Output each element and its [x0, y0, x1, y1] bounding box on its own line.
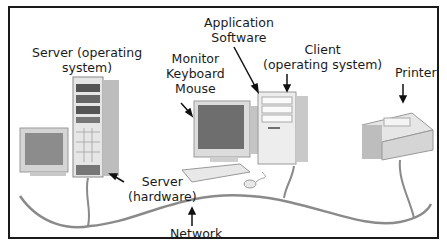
label-printer: Printer	[395, 65, 437, 80]
client-mouse-icon	[244, 180, 256, 188]
label-network: Network	[170, 226, 222, 241]
label-line: (operating system)	[263, 57, 382, 72]
label-line: Monitor	[166, 51, 225, 66]
label-server-hardware: Server (hardware)	[128, 174, 197, 204]
client-monitor-icon	[194, 101, 260, 162]
label-line: (hardware)	[128, 189, 197, 204]
label-line: Server	[128, 174, 197, 189]
label-peripherals: Monitor Keyboard Mouse	[166, 51, 225, 96]
label-client-os: Client (operating system)	[263, 42, 382, 72]
server-tower-icon	[73, 77, 119, 177]
label-line: Application	[204, 15, 274, 30]
label-line: system)	[32, 60, 142, 75]
label-application-software: Application Software	[204, 15, 274, 45]
label-line: Client	[263, 42, 382, 57]
network-cable	[20, 195, 431, 227]
server-monitor-icon	[20, 128, 68, 176]
label-line: Keyboard	[166, 66, 225, 81]
label-line: Server (operating	[32, 45, 142, 60]
client-tower-icon	[258, 92, 308, 164]
label-line: Mouse	[166, 81, 225, 96]
printer-icon	[362, 113, 433, 160]
label-server-os: Server (operating system)	[32, 45, 142, 75]
